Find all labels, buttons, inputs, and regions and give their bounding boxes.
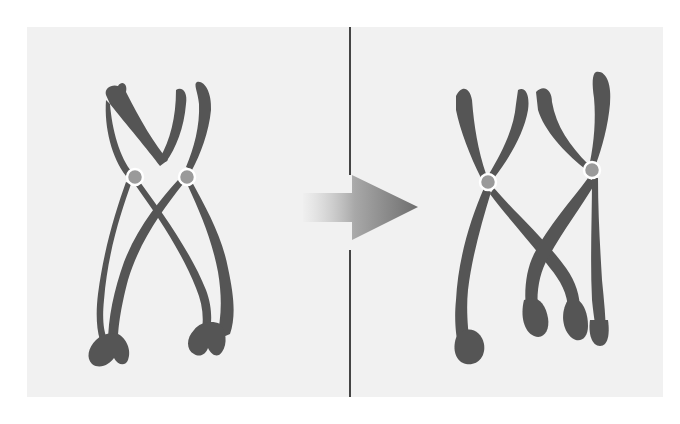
chromosome-arm — [455, 188, 491, 345]
chromosome-diagram — [0, 0, 680, 424]
chromosome-arm — [591, 178, 606, 338]
chromosome-arm — [186, 82, 211, 170]
chromosome-knob — [89, 333, 130, 366]
chromosome-arm — [160, 89, 186, 162]
chromosome-arm — [489, 89, 529, 178]
chromosome-arm — [456, 89, 486, 178]
chromosome-knob — [563, 300, 588, 340]
chromosome-knob — [454, 330, 484, 365]
centromere-icon — [584, 162, 600, 178]
left-chromosome-pair — [89, 82, 234, 367]
right-chromosome-pair — [454, 72, 610, 364]
arrow-right-icon — [303, 175, 418, 240]
centromere-icon — [127, 169, 143, 185]
chromosome-arm — [590, 72, 610, 164]
chromosome-arm — [536, 88, 588, 168]
chromosome-knob — [589, 320, 608, 346]
centromere-icon — [179, 169, 195, 185]
chromosome-knob — [188, 322, 226, 356]
centromere-icon — [480, 174, 496, 190]
chromosome-knob — [522, 298, 548, 337]
